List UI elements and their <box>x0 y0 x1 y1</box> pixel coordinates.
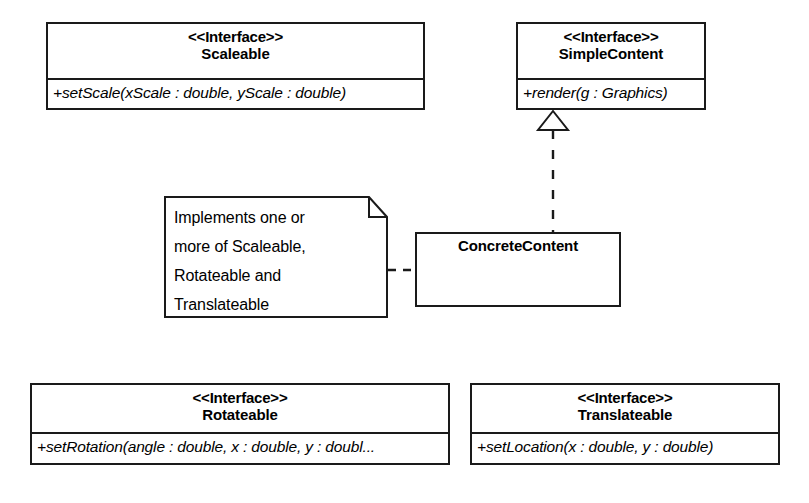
uml-class-diagram: <<Interface>> Scaleable +setScale(xScale… <box>0 0 809 503</box>
note-anchor-connector[interactable] <box>0 0 809 503</box>
